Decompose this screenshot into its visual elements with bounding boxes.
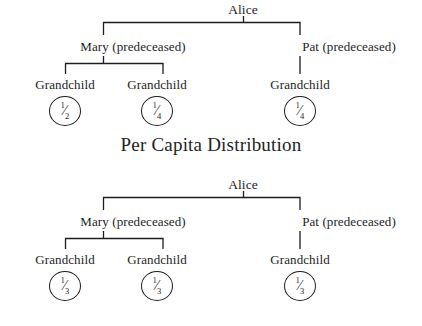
node-grandchild-1: Grandchild xyxy=(35,78,94,92)
fraction-one-third: 1⁄3 xyxy=(152,278,163,294)
fraction-denominator: 2 xyxy=(65,111,69,121)
fraction-denominator: 4 xyxy=(157,111,161,121)
fraction-denominator: 4 xyxy=(300,111,304,121)
share-badge-grandchild-2: 1⁄4 xyxy=(141,96,173,126)
node-grandchild-2: Grandchild xyxy=(127,253,186,267)
fraction-one-quarter: 1⁄4 xyxy=(152,103,163,119)
node-child-pat: Pat (predeceased) xyxy=(302,40,396,54)
fraction-denominator: 3 xyxy=(65,286,69,296)
fraction-denominator: 3 xyxy=(157,286,161,296)
share-badge-grandchild-3: 1⁄4 xyxy=(284,96,316,126)
node-grandchild-1: Grandchild xyxy=(35,253,94,267)
node-grandchild-3: Grandchild xyxy=(270,78,329,92)
fraction-denominator: 3 xyxy=(300,286,304,296)
node-child-mary: Mary (predeceased) xyxy=(80,215,185,229)
share-badge-grandchild-1: 1⁄3 xyxy=(49,271,81,301)
per-capita-distribution-title: Per Capita Distribution xyxy=(0,134,422,156)
node-child-mary: Mary (predeceased) xyxy=(80,40,185,54)
share-badge-grandchild-1: 1⁄2 xyxy=(49,96,81,126)
node-root-alice: Alice xyxy=(228,178,258,192)
fraction-one-third: 1⁄3 xyxy=(295,278,306,294)
per-capita-distribution-diagram: Alice Mary (predeceased) Pat (predecease… xyxy=(0,0,422,140)
node-child-pat: Pat (predeceased) xyxy=(302,215,396,229)
fraction-one-third: 1⁄3 xyxy=(60,278,71,294)
node-grandchild-3: Grandchild xyxy=(270,253,329,267)
fraction-one-half: 1⁄2 xyxy=(60,103,71,119)
share-badge-grandchild-2: 1⁄3 xyxy=(141,271,173,301)
node-grandchild-2: Grandchild xyxy=(127,78,186,92)
fraction-one-quarter: 1⁄4 xyxy=(295,103,306,119)
share-badge-grandchild-3: 1⁄3 xyxy=(284,271,316,301)
node-root-alice: Alice xyxy=(228,3,258,17)
equal-share-distribution-diagram: Alice Mary (predeceased) Pat (predecease… xyxy=(0,175,422,315)
